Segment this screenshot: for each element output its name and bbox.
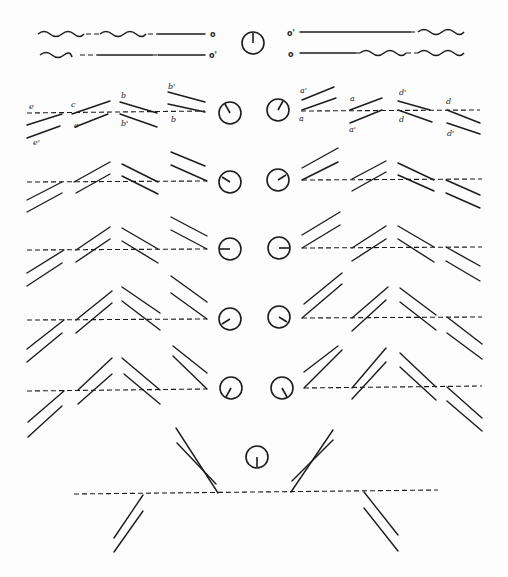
dial-row-4-right xyxy=(268,306,290,328)
label-a-lower: a xyxy=(299,114,304,123)
top-wave-group-left xyxy=(38,32,205,58)
row-3 xyxy=(27,212,482,286)
label-b-prime-upper: b' xyxy=(168,82,175,91)
label-e-prime: e' xyxy=(33,138,40,147)
label-b-prime-lower: b' xyxy=(121,119,128,128)
label-a-prime-upper: a' xyxy=(300,86,307,95)
label-d-lower: d xyxy=(399,115,404,124)
label-o-left: o xyxy=(210,30,216,39)
dial-row-2-left xyxy=(219,171,241,193)
row-2 xyxy=(27,148,482,212)
dial-row-3-left xyxy=(219,238,241,260)
label-o-right: o xyxy=(288,50,294,59)
label-b-upper: b xyxy=(121,91,126,100)
dial-row-1-right xyxy=(267,99,289,121)
dial-bottom xyxy=(246,446,268,468)
top-wave-group-right xyxy=(300,30,464,56)
label-a-prime-lower: a' xyxy=(349,125,356,134)
label-d-prime-upper: d' xyxy=(399,88,406,97)
label-b-lower: b xyxy=(171,115,176,124)
label-c-lower: c xyxy=(74,121,79,130)
dial-row-2-right xyxy=(267,169,289,191)
label-c-upper: c xyxy=(71,100,76,109)
row-5 xyxy=(27,346,482,437)
dial-top xyxy=(242,32,264,54)
label-d-prime-lower: d' xyxy=(447,129,454,138)
label-a-upper: a xyxy=(350,94,355,103)
label-o-prime-right: o' xyxy=(287,29,295,38)
label-d-upper: d xyxy=(446,97,451,106)
phase-diagram: o o' o' o e e' c c b b' b' b xyxy=(0,0,508,577)
dial-row-1-left xyxy=(219,102,241,124)
row-4 xyxy=(27,273,482,362)
row-1: e e' c c b b' b' b a' a a a' d' d d d' xyxy=(27,82,480,147)
dial-row-4-left xyxy=(219,308,241,330)
label-e-upper: e xyxy=(29,102,34,111)
label-o-prime-left: o' xyxy=(209,51,217,60)
dial-row-5-right xyxy=(271,377,293,399)
dial-row-5-left xyxy=(220,377,242,399)
dial-row-3-right xyxy=(268,237,290,259)
